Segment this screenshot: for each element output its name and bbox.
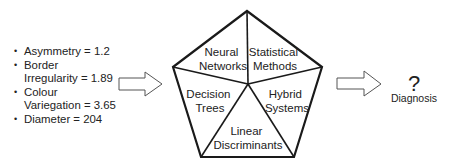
diagram-canvas: Neural Networks Statistical Methods Deci…	[0, 0, 452, 163]
input-arrow-icon	[119, 72, 162, 96]
output-arrow-icon	[337, 71, 381, 96]
diagnosis-label: Diagnosis	[391, 92, 437, 104]
